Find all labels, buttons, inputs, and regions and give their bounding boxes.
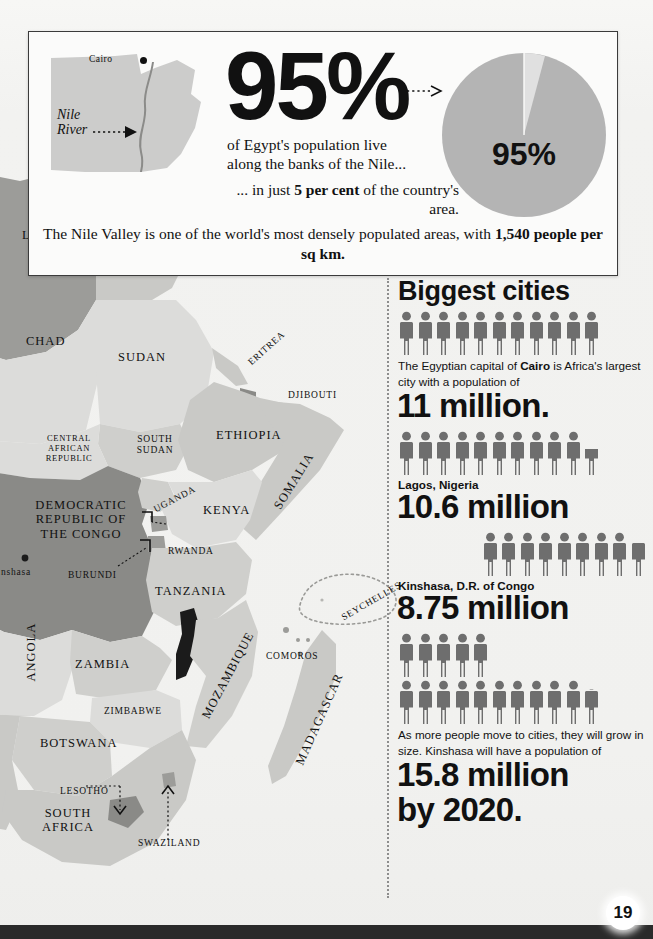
inset-nile-river-label: Nile River bbox=[57, 107, 87, 138]
page-number-badge: 19 bbox=[606, 896, 640, 930]
biggest-cities-section: Biggest cities The Egyptian capital of C… bbox=[396, 276, 650, 916]
column-divider bbox=[387, 278, 389, 898]
pictogram-row-kinshasa-2020-top bbox=[398, 633, 650, 677]
person-icon bbox=[417, 431, 434, 475]
lead-text-line2: along the banks of the Nile... bbox=[227, 155, 406, 172]
person-icon bbox=[565, 311, 582, 355]
nile-label-line2: River bbox=[57, 122, 87, 137]
person-icon bbox=[417, 311, 434, 355]
cairo-body-text: The Egyptian capital of Cairo is Africa'… bbox=[398, 358, 650, 389]
person-icon bbox=[435, 431, 452, 475]
inset-cairo-label: Cairo bbox=[89, 54, 112, 64]
lagos-population-value: 10.6 million bbox=[397, 490, 650, 525]
person-icon bbox=[528, 311, 545, 355]
person-icon bbox=[519, 532, 536, 576]
cairo-body-prefix: The Egyptian capital of bbox=[398, 359, 520, 372]
person-icon bbox=[491, 311, 508, 355]
person-icon bbox=[565, 680, 582, 724]
page-bottom-strip bbox=[0, 925, 653, 939]
map-label-lesotho: LESOTHO bbox=[60, 786, 109, 797]
map-label-comoros: COMOROS bbox=[266, 651, 318, 662]
infographic-page: LIBYA EGYPT Cairo CHAD SUDAN ERITREA DJI… bbox=[0, 0, 653, 939]
map-label-swaziland: SWAZILAND bbox=[138, 838, 200, 849]
map-label-sudan: SUDAN bbox=[118, 350, 166, 364]
person-icon bbox=[565, 431, 582, 475]
map-label-rwanda: RWANDA bbox=[168, 546, 214, 557]
person-icon bbox=[556, 532, 573, 576]
person-icon bbox=[509, 431, 526, 475]
person-icon bbox=[398, 311, 415, 355]
map-label-botswana: BOTSWANA bbox=[40, 736, 117, 750]
person-icon bbox=[417, 633, 434, 677]
map-label-ethiopia: ETHIOPIA bbox=[216, 428, 282, 442]
nile-population-pie-chart: 95% bbox=[439, 50, 609, 220]
map-label-central-african-republic: CENTRAL AFRICAN REPUBLIC bbox=[30, 434, 108, 463]
person-icon bbox=[509, 680, 526, 724]
kinshasa-population-value: 8.75 million bbox=[397, 591, 650, 626]
person-icon bbox=[528, 680, 545, 724]
person-icon bbox=[472, 680, 489, 724]
inset-cairo-dot bbox=[140, 57, 147, 64]
city-block-cairo: The Egyptian capital of Cairo is Africa'… bbox=[396, 311, 650, 424]
kinshasa-2020-value-line1: 15.8 million bbox=[397, 756, 569, 793]
kinshasa-2020-population-value: 15.8 million by 2020. bbox=[397, 758, 650, 828]
density-text-prefix: The Nile Valley is one of the world's mo… bbox=[43, 225, 495, 242]
density-text: The Nile Valley is one of the world's mo… bbox=[43, 224, 603, 264]
city-block-lagos: Lagos, Nigeria 10.6 million bbox=[396, 431, 650, 525]
lead-text-line1: of Egypt's population live bbox=[227, 136, 387, 153]
person-icon bbox=[482, 532, 499, 576]
cairo-body-bold: Cairo bbox=[520, 359, 550, 372]
person-icon bbox=[398, 431, 415, 475]
person-icon bbox=[491, 680, 508, 724]
kinshasa-2020-value-line2: by 2020. bbox=[397, 791, 522, 828]
map-label-kenya: KENYA bbox=[203, 503, 250, 517]
person-icon bbox=[472, 431, 489, 475]
person-icon bbox=[528, 431, 545, 475]
person-icon bbox=[472, 311, 489, 355]
map-label-south-africa: SOUTH AFRICA bbox=[34, 806, 102, 835]
pictogram-row-kinshasa-2020-bottom bbox=[398, 680, 650, 724]
person-icon-partial bbox=[630, 532, 647, 576]
person-icon bbox=[454, 680, 471, 724]
area-text-prefix: ... in just bbox=[236, 181, 294, 198]
person-icon bbox=[537, 532, 554, 576]
person-icon bbox=[435, 633, 452, 677]
person-icon bbox=[574, 532, 591, 576]
person-icon bbox=[435, 680, 452, 724]
person-icon bbox=[583, 311, 600, 355]
person-icon bbox=[509, 311, 526, 355]
map-label-djibouti: DJIBOUTI bbox=[288, 390, 337, 401]
map-label-burundi: BURUNDI bbox=[68, 570, 117, 581]
cairo-population-value: 11 million. bbox=[397, 389, 650, 424]
person-icon bbox=[417, 680, 434, 724]
map-label-chad: CHAD bbox=[26, 334, 65, 348]
person-icon bbox=[454, 311, 471, 355]
person-icon bbox=[398, 633, 415, 677]
pictogram-row-cairo bbox=[398, 311, 650, 355]
biggest-cities-heading: Biggest cities bbox=[398, 276, 650, 307]
map-label-drc: DEMOCRATIC REPUBLIC OF THE CONGO bbox=[28, 498, 134, 541]
pie-chart-value-label: 95% bbox=[439, 136, 609, 173]
person-icon bbox=[435, 311, 452, 355]
person-icon bbox=[546, 431, 563, 475]
nile-stat-panel: Cairo Nile River 95% of Egypt's populati… bbox=[28, 31, 618, 276]
area-text-bold: 5 per cent bbox=[294, 181, 359, 198]
person-icon bbox=[454, 431, 471, 475]
person-icon bbox=[546, 311, 563, 355]
kinshasa-2020-body-text: As more people move to cities, they will… bbox=[398, 727, 650, 758]
person-icon bbox=[454, 633, 471, 677]
map-label-angola: ANGOLA bbox=[24, 623, 38, 682]
person-icon bbox=[500, 532, 517, 576]
city-block-kinshasa-2020: As more people move to cities, they will… bbox=[396, 633, 650, 828]
city-block-kinshasa: Kinshasa, D.R. of Congo 8.75 million bbox=[396, 532, 650, 626]
nile-label-line1: Nile bbox=[57, 107, 80, 122]
map-label-south-sudan: SOUTH SUDAN bbox=[127, 434, 183, 456]
person-icon bbox=[593, 532, 610, 576]
person-icon-partial bbox=[583, 431, 600, 475]
pictogram-row-lagos bbox=[398, 431, 650, 475]
person-icon bbox=[611, 532, 628, 576]
map-label-kinshasa: Kinshasa bbox=[0, 567, 31, 578]
map-label-tanzania: TANZANIA bbox=[155, 584, 227, 598]
person-icon bbox=[472, 633, 489, 677]
person-icon bbox=[546, 680, 563, 724]
